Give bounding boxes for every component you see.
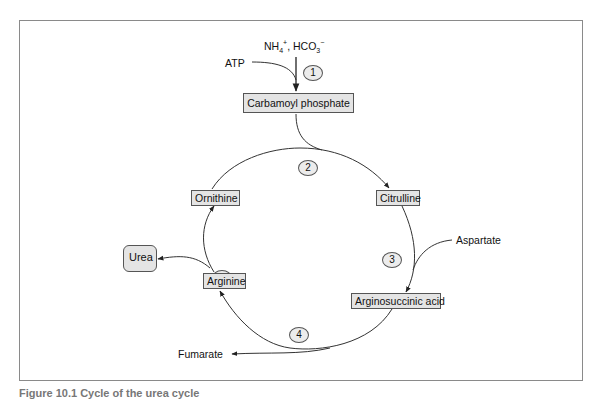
figure-caption: Figure 10.1 Cycle of the urea cycle [19,387,199,399]
node-carbamoyl-phosphate: Carbamoyl phosphate [243,93,354,113]
node-ornithine: Ornithine [191,190,240,206]
node-urea: Urea [123,245,157,272]
step-3-badge: 3 [382,252,402,268]
arrow-aspartate [413,240,452,270]
step-4-badge: 4 [289,327,309,343]
atp-label: ATP [225,57,245,69]
node-arginine: Arginine [203,273,246,289]
node-citrulline: Citrulline [376,190,420,206]
arrow-atp [252,62,296,80]
arrow-urea [158,257,210,268]
fumarate-label: Fumarate [178,348,223,360]
reactants-label: NH4+, HCO3− [264,39,324,54]
step-2-badge: 2 [298,160,318,176]
arrow-arginine-to-ornithine [204,206,215,272]
aspartate-label: Aspartate [456,234,501,246]
arrow-carbamoyl-join [296,114,322,150]
step-1-badge: 1 [303,65,323,81]
arrow-citrulline-to-arginosuccinic [402,206,415,292]
node-arginosuccinic-acid: Arginosuccinic acid [351,293,441,309]
